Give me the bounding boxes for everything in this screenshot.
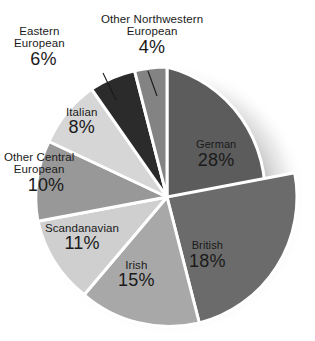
pie-chart-graphic: [0, 0, 315, 341]
pie-chart-page: German 28% British 18% Irish 15% Scandan…: [0, 0, 315, 341]
